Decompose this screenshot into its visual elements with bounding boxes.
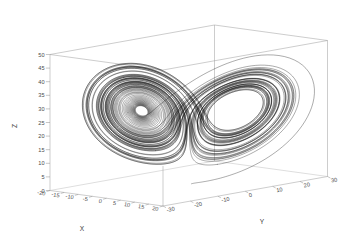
x-tick-label: -10 <box>65 193 74 200</box>
y-tick-label: 20 <box>303 181 310 188</box>
y-tick-label: -30 <box>166 206 175 213</box>
y-axis-label: Y <box>260 218 265 225</box>
x-tick-label: -15 <box>51 191 60 198</box>
z-tick-label: 45 <box>38 65 44 71</box>
z-tick-label: 50 <box>38 52 44 58</box>
x-axis-label: X <box>80 225 85 232</box>
trajectory-path <box>86 66 292 160</box>
trajectory-path <box>82 63 288 164</box>
z-tick-label: 5 <box>41 174 44 180</box>
y-tick-label: -10 <box>221 196 230 203</box>
x-tick-label: 15 <box>138 203 145 210</box>
lorenz-attractor-plot: -20-15-10-505101520-30-20-10010203005101… <box>0 0 361 245</box>
y-tick-label: 10 <box>276 186 283 193</box>
z-tick-label: 30 <box>38 106 44 112</box>
z-axis-label: Z <box>11 124 18 128</box>
x-tick-label: 10 <box>124 201 131 208</box>
z-tick-label: 25 <box>38 120 44 126</box>
axis-ticks <box>46 55 331 208</box>
z-tick-label: 40 <box>38 79 44 85</box>
y-tick-label: 0 <box>248 192 252 198</box>
y-tick-label: 30 <box>331 176 338 183</box>
x-tick-label: -5 <box>82 196 88 203</box>
axis-tick-labels: -20-15-10-505101520-30-20-10010203005101… <box>37 52 338 213</box>
z-tick-label: 0 <box>41 188 44 194</box>
z-tick-label: 35 <box>38 92 44 98</box>
plot-canvas: -20-15-10-505101520-30-20-10010203005101… <box>0 0 361 245</box>
x-tick-label: 5 <box>112 200 116 206</box>
y-tick-label: -20 <box>193 201 202 208</box>
z-tick-label: 15 <box>38 147 44 153</box>
z-tick-label: 10 <box>38 160 44 166</box>
x-tick-label: 20 <box>152 205 159 212</box>
z-tick-label: 20 <box>38 133 44 139</box>
x-tick-label: 0 <box>98 198 102 204</box>
trajectory-curve <box>82 55 314 184</box>
